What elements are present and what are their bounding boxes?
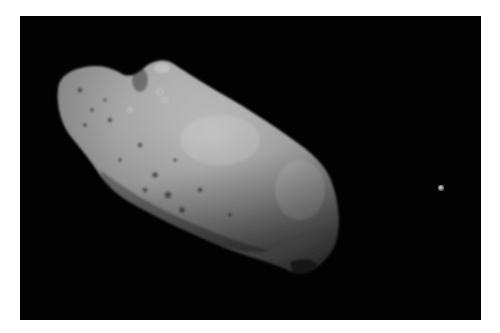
asteroid-moon [438,185,444,191]
space-photo-frame [20,16,481,320]
space-photo [20,16,481,320]
